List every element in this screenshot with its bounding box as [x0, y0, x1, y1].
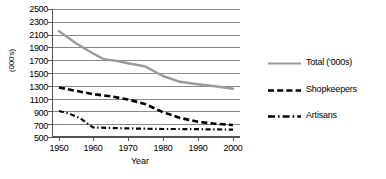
x-tick-label: 1980 — [148, 143, 178, 153]
x-tick-label: 1990 — [183, 143, 213, 153]
legend-label-total: Total ('000s) — [306, 57, 352, 67]
x-tick-label: 1970 — [113, 143, 143, 153]
series-line-artisans — [59, 111, 233, 130]
legend-label-artisans: Artisans — [306, 110, 337, 120]
series-line-shopkeepers — [59, 87, 233, 125]
y-tick-marks — [48, 10, 52, 138]
legend-swatch-shopkeepers — [268, 89, 301, 92]
line-chart: (000's) 2500 2300 2100 1900 1700 1500 13… — [0, 0, 386, 179]
x-tick-marks — [59, 137, 233, 141]
series-line-total — [59, 31, 233, 89]
x-tick-label: 1960 — [78, 143, 108, 153]
legend-label-shopkeepers: Shopkeepers — [306, 84, 357, 94]
legend-swatch-total — [268, 62, 301, 65]
x-tick-label: 2000 — [218, 143, 248, 153]
legend-swatch-artisans — [268, 115, 301, 118]
x-axis-title: Year — [52, 156, 228, 166]
x-tick-label: 1950 — [44, 143, 74, 153]
